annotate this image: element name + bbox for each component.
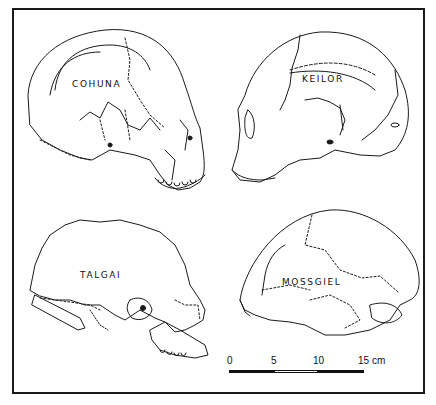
talgai-skull-drawing	[30, 220, 208, 358]
specimen-label-cohuna: COHUNA	[72, 79, 121, 89]
skull-drawings	[0, 0, 436, 405]
specimen-label-talgai: TALGAI	[80, 270, 121, 280]
mossgiel-skull-drawing	[240, 210, 419, 335]
keilor-skull-drawing	[232, 32, 408, 182]
scale-tick-15cm: 15 cm	[358, 355, 385, 366]
specimen-label-keilor: KEILOR	[302, 74, 344, 84]
scale-segment-10-15	[318, 370, 364, 373]
scale-segment-0-5	[229, 370, 274, 373]
scale-tick-0: 0	[227, 355, 233, 366]
specimen-label-mossgiel: MOSSGIEL	[282, 277, 341, 287]
scale-tick-5: 5	[271, 355, 277, 366]
scale-segment-5-10	[274, 370, 318, 373]
scale-tick-10: 10	[313, 355, 324, 366]
cohuna-skull-drawing	[28, 30, 205, 190]
